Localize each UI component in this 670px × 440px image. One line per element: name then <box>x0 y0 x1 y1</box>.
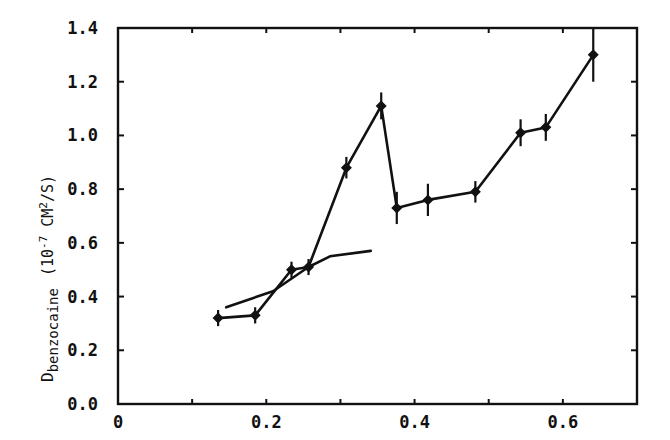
y-axis-label-units-exp2: 2 <box>37 202 50 209</box>
x-axis-ticks <box>192 28 563 404</box>
y-axis-label-units-mid: CM <box>39 209 57 236</box>
x-tick-label: 0.2 <box>251 412 282 432</box>
y-tick-label: 0.4 <box>67 287 98 307</box>
series-line-measured <box>218 55 593 318</box>
data-series <box>213 28 599 326</box>
y-axis-ticks <box>118 82 637 351</box>
y-tick-label: 0.8 <box>67 179 98 199</box>
y-axis-label-subscript: benzocaine <box>45 288 61 372</box>
y-tick-label: 0.0 <box>67 394 98 414</box>
data-point-diamond <box>341 162 352 173</box>
y-axis-label-units-prefix: (10 <box>39 249 57 276</box>
y-tick-label: 1.0 <box>67 125 98 145</box>
x-tick-label: 0.6 <box>547 412 578 432</box>
data-point-diamond <box>391 202 402 213</box>
data-point-diamond <box>376 100 387 111</box>
plot-frame <box>118 28 637 404</box>
y-axis-label: Dbenzocaine(10-7 CM2/S) <box>37 175 61 382</box>
y-axis-label-main: D <box>38 372 57 382</box>
y-tick-label: 0.2 <box>67 340 98 360</box>
x-tick-label: 0.4 <box>399 412 430 432</box>
data-point-diamond <box>422 194 433 205</box>
x-tick-label: 0 <box>113 412 123 432</box>
y-tick-label: 1.2 <box>67 72 98 92</box>
series-line-model <box>226 251 371 307</box>
data-point-diamond <box>213 313 224 324</box>
y-axis-tick-labels: 0.00.20.40.60.81.01.21.4 <box>67 18 98 414</box>
y-axis-label-units-exp: -7 <box>37 236 50 249</box>
y-axis-label-units-suffix: /S) <box>39 175 57 202</box>
y-tick-label: 0.6 <box>67 233 98 253</box>
x-axis-tick-labels: 00.20.40.6 <box>113 412 578 432</box>
y-tick-label: 1.4 <box>67 18 98 38</box>
chart: 00.20.40.6 0.00.20.40.60.81.01.21.4 Dben… <box>0 0 670 440</box>
